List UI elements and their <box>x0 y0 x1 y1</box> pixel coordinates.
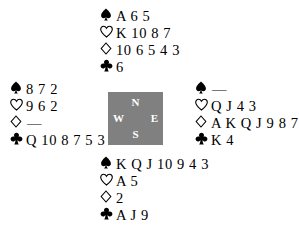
west-diamond-cards: — <box>24 115 42 132</box>
diamond-suit-icon <box>100 190 114 203</box>
north-hand: A 6 5 K 10 8 7 10 6 5 4 3 6 <box>100 8 180 76</box>
north-diamond-cards: 10 6 5 4 3 <box>114 42 180 59</box>
heart-suit-icon <box>100 25 114 38</box>
south-hand: K Q J 10 9 4 3 A 5 2 A J 9 <box>100 156 209 224</box>
spade-suit-icon <box>100 8 114 21</box>
club-suit-icon <box>100 59 114 72</box>
west-club-cards: Q 10 8 7 5 3 2 <box>24 132 117 149</box>
west-heart-cards: 9 6 2 <box>24 98 58 115</box>
club-suit-icon <box>10 132 24 145</box>
south-heart-row: A 5 <box>100 173 209 190</box>
south-diamond-cards: 2 <box>114 190 124 207</box>
south-heart-cards: A 5 <box>114 173 138 190</box>
club-suit-icon <box>100 207 114 220</box>
north-diamond-row: 10 6 5 4 3 <box>100 42 180 59</box>
east-hand: — Q J 4 3 A K Q J 9 8 7 K 4 <box>195 81 299 149</box>
west-spade-row: 8 7 2 <box>10 81 117 98</box>
east-diamond-row: A K Q J 9 8 7 <box>195 115 299 132</box>
heart-suit-icon <box>10 98 24 111</box>
diamond-suit-icon <box>100 42 114 55</box>
east-club-row: K 4 <box>195 132 299 149</box>
compass-south-label: S <box>108 129 163 140</box>
south-diamond-row: 2 <box>100 190 209 207</box>
north-club-row: 6 <box>100 59 180 76</box>
south-spade-cards: K Q J 10 9 4 3 <box>114 156 209 173</box>
spade-suit-icon <box>195 81 209 94</box>
east-spade-cards: — <box>209 81 227 98</box>
diamond-suit-icon <box>195 115 209 128</box>
spade-suit-icon <box>10 81 24 94</box>
north-heart-cards: K 10 8 7 <box>114 25 171 42</box>
compass-box: N W E S <box>108 92 163 145</box>
north-heart-row: K 10 8 7 <box>100 25 180 42</box>
west-club-row: Q 10 8 7 5 3 2 <box>10 132 117 149</box>
east-heart-row: Q J 4 3 <box>195 98 299 115</box>
east-diamond-cards: A K Q J 9 8 7 <box>209 115 299 132</box>
north-spade-cards: A 6 5 <box>114 8 150 25</box>
compass-north-label: N <box>108 97 163 108</box>
north-spade-row: A 6 5 <box>100 8 180 25</box>
east-heart-cards: Q J 4 3 <box>209 98 257 115</box>
compass-east-label: E <box>151 113 158 124</box>
south-club-cards: A J 9 <box>114 207 149 224</box>
west-heart-row: 9 6 2 <box>10 98 117 115</box>
west-spade-cards: 8 7 2 <box>24 81 58 98</box>
club-suit-icon <box>195 132 209 145</box>
west-hand: 8 7 2 9 6 2 — Q 10 8 7 5 3 2 <box>10 81 117 149</box>
east-club-cards: K 4 <box>209 132 234 149</box>
south-club-row: A J 9 <box>100 207 209 224</box>
heart-suit-icon <box>195 98 209 111</box>
heart-suit-icon <box>100 173 114 186</box>
spade-suit-icon <box>100 156 114 169</box>
compass-west-label: W <box>113 113 124 124</box>
south-spade-row: K Q J 10 9 4 3 <box>100 156 209 173</box>
diamond-suit-icon <box>10 115 24 128</box>
bridge-hand-diagram: A 6 5 K 10 8 7 10 6 5 4 3 6 8 7 2 <box>0 0 299 235</box>
north-club-cards: 6 <box>114 59 124 76</box>
west-diamond-row: — <box>10 115 117 132</box>
east-spade-row: — <box>195 81 299 98</box>
